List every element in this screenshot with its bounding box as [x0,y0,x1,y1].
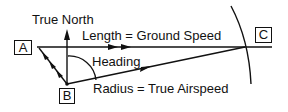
point-a-label: A [14,40,32,55]
ground-speed-label: Length = Ground Speed [82,29,221,42]
track-arrowhead-icon [108,44,118,50]
point-b-dot [65,82,69,86]
true-airspeed-label: Radius = True Airspeed [93,82,229,95]
north-arrowhead-icon [64,29,70,40]
point-b-label: B [59,88,75,104]
point-c-label: C [255,27,272,43]
heading-arrowhead-icon [140,66,152,72]
true-north-label: True North [32,13,94,26]
heading-label: Heading [92,55,140,68]
airspeed-radius-arc [231,6,251,84]
track-arrowhead-icon [121,44,131,50]
